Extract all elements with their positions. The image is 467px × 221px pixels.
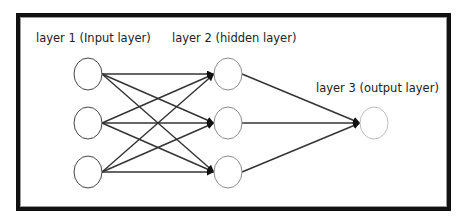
hidden-node (214, 107, 242, 139)
input-node (74, 58, 102, 90)
layer-2-label: layer 2 (hidden layer) (172, 31, 296, 45)
layer-3-label: layer 3 (output layer) (316, 81, 439, 95)
edge (242, 123, 360, 172)
hidden-layer-nodes (214, 58, 242, 188)
hidden-node (214, 156, 242, 188)
layer-1-label: layer 1 (Input layer) (36, 31, 151, 45)
input-to-hidden-edges (102, 74, 214, 172)
input-layer-nodes (74, 58, 102, 188)
hidden-node (214, 58, 242, 90)
neural-network-diagram: layer 1 (Input layer) layer 2 (hidden la… (0, 0, 467, 221)
input-node (74, 156, 102, 188)
input-node (74, 107, 102, 139)
output-node (360, 107, 388, 139)
output-layer-nodes (360, 107, 388, 139)
